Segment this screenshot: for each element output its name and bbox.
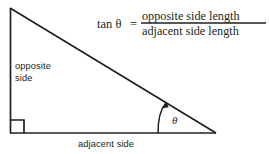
angle-theta-label: θ <box>172 114 178 126</box>
angle-arc <box>158 104 166 134</box>
formula-left-side: tan θ <box>97 17 121 31</box>
figure-container: tan θ = opposite side length adjacent si… <box>0 0 269 154</box>
adjacent-side-label: adjacent side <box>78 139 134 149</box>
formula-numerator: opposite side length <box>142 9 240 23</box>
tangent-triangle-diagram: tan θ = opposite side length adjacent si… <box>0 0 269 154</box>
formula-denominator: adjacent side length <box>142 24 239 38</box>
opposite-side-label-line2: side <box>15 73 32 83</box>
formula-equals-sign: = <box>130 17 137 31</box>
opposite-side-label-line1: opposite <box>15 61 51 71</box>
right-angle-marker-icon <box>11 120 25 133</box>
